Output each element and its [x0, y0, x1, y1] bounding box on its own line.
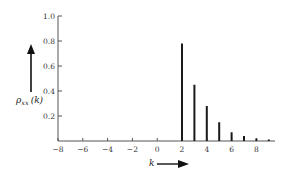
- up-arrow-head-icon: [27, 44, 35, 54]
- x-label-text: k: [149, 158, 154, 168]
- x-tick-label: 6: [229, 145, 234, 154]
- axes: 0.20.40.60.81.0−8−6−4−202468: [43, 12, 275, 155]
- stem-bar: [206, 106, 208, 141]
- x-tick-label: −2: [127, 145, 138, 154]
- y-tick-label: 1.0: [43, 12, 55, 21]
- y-tick-label: 0.2: [43, 112, 55, 121]
- x-tick-label: −6: [77, 145, 88, 154]
- stem-bar: [193, 85, 195, 141]
- stem-bar: [218, 122, 220, 141]
- y-axis-label: ρxx(k): [15, 44, 44, 107]
- x-tick-label: −4: [102, 145, 113, 154]
- stem-bar: [268, 140, 270, 142]
- y-label-text: ρxx(k): [15, 95, 44, 107]
- stem-bar: [181, 44, 183, 142]
- y-tick-label: 0.6: [43, 62, 55, 71]
- stem-bar: [255, 139, 257, 142]
- stem-bar: [231, 132, 233, 141]
- stems: [181, 44, 270, 142]
- y-tick-label: 0.8: [43, 37, 55, 46]
- x-tick-label: 0: [155, 145, 160, 154]
- stem-chart: 0.20.40.60.81.0−8−6−4−202468 ρxx(k) k: [0, 0, 296, 178]
- x-tick-label: −8: [52, 145, 63, 154]
- x-tick-label: 8: [254, 145, 259, 154]
- x-axis-label: k: [149, 158, 189, 168]
- x-tick-label: 2: [180, 145, 185, 154]
- y-tick-label: 0.4: [43, 87, 55, 96]
- right-arrow-head-icon: [178, 160, 189, 168]
- x-tick-label: 4: [204, 145, 209, 154]
- stem-bar: [243, 136, 245, 141]
